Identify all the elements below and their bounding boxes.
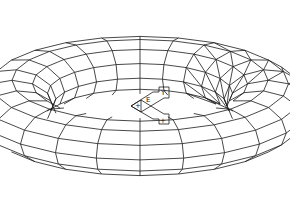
ucs-label-origin: + [135, 102, 141, 110]
torus-canvas: + E + Y [0, 0, 290, 209]
ucs-label-e: E [146, 96, 150, 104]
drawing-viewport[interactable]: + E + Y [0, 0, 290, 209]
torus-wireframe-mesh [0, 36, 290, 175]
ucs-icon: + E + Y [131, 87, 169, 125]
ucs-label-x: + [160, 117, 166, 125]
ucs-label-y: Y [160, 89, 166, 97]
